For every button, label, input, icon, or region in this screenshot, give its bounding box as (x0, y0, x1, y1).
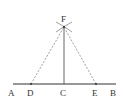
label-d: D (27, 88, 34, 98)
label-e: E (92, 88, 98, 98)
point-d (30, 83, 32, 85)
segment-df (31, 27, 64, 84)
label-c: C (60, 88, 66, 98)
label-b: B (110, 88, 116, 98)
segment-ef (64, 27, 96, 84)
label-f: F (61, 14, 66, 24)
geometry-diagram: F A D C E B (0, 0, 123, 101)
point-e (95, 83, 97, 85)
point-f (63, 26, 65, 28)
label-a: A (8, 88, 15, 98)
